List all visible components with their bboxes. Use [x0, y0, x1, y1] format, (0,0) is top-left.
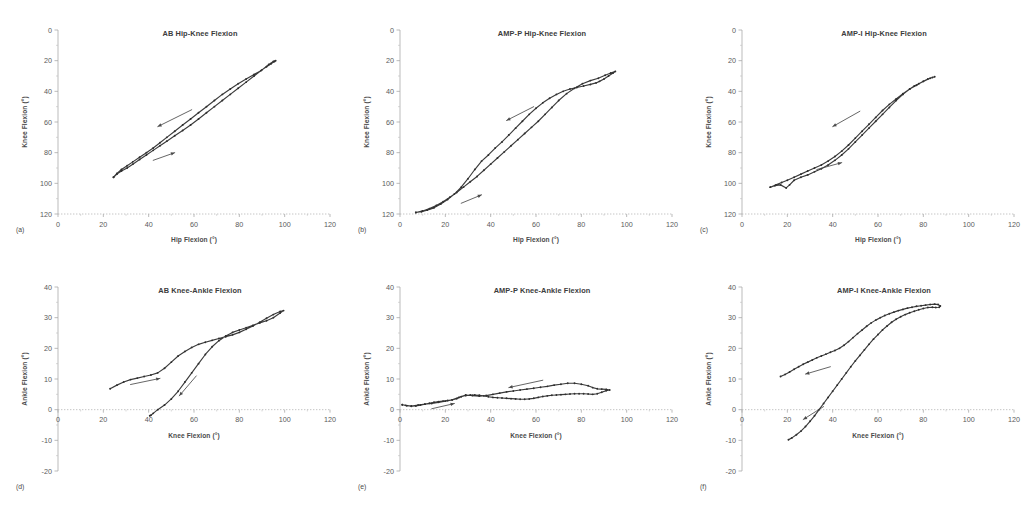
data-marker [555, 394, 557, 396]
y-tick-label: 60 [44, 118, 52, 127]
data-marker [596, 388, 598, 390]
data-marker [528, 398, 530, 400]
y-tick-label: 20 [44, 56, 52, 65]
data-marker [569, 393, 571, 395]
data-marker [935, 307, 937, 309]
data-marker [841, 150, 843, 152]
data-marker [266, 66, 268, 68]
data-marker [515, 398, 517, 400]
data-marker [597, 77, 599, 79]
data-marker [861, 329, 863, 331]
data-marker [506, 397, 508, 399]
data-marker [521, 120, 523, 122]
arrow-head-icon [509, 385, 513, 388]
plot-panel-d: 403020100-10-20020406080100120AB Knee-An… [0, 257, 342, 514]
data-marker [460, 186, 462, 188]
data-marker [857, 333, 859, 335]
data-marker [182, 124, 184, 126]
data-marker [807, 174, 809, 176]
data-marker [426, 209, 428, 211]
data-marker [820, 164, 822, 166]
y-tick-label: 80 [728, 148, 736, 157]
x-tick-label: 100 [279, 415, 291, 424]
plot-panel-b: 020406080100120020406080100120AMP-P Hip-… [342, 0, 684, 257]
x-tick-label: 120 [666, 220, 678, 229]
data-marker [152, 149, 154, 151]
data-marker [164, 367, 166, 369]
data-marker [583, 85, 585, 87]
data-marker [116, 384, 118, 386]
data-marker [499, 392, 501, 394]
data-marker [608, 75, 610, 77]
y-tick-label: 80 [44, 148, 52, 157]
data-marker [601, 388, 603, 390]
data-marker [909, 88, 911, 90]
data-marker [827, 396, 829, 398]
data-marker [823, 403, 825, 405]
data-marker [832, 390, 834, 392]
data-marker [848, 144, 850, 146]
data-marker [458, 396, 460, 398]
data-marker [916, 84, 918, 86]
data-marker [834, 156, 836, 158]
data-marker [827, 164, 829, 166]
x-tick-label: 80 [235, 220, 243, 229]
x-tick-label: 100 [963, 220, 975, 229]
data-marker [537, 396, 539, 398]
data-marker [519, 398, 521, 400]
data-marker [868, 127, 870, 129]
x-tick-label: 0 [56, 220, 60, 229]
data-marker [549, 97, 551, 99]
data-marker [270, 63, 272, 65]
data-marker [868, 343, 870, 345]
y-tick-label: -10 [42, 436, 52, 445]
data-marker [888, 313, 890, 315]
x-tick-label: 100 [621, 415, 633, 424]
data-marker [848, 148, 850, 150]
data-marker [895, 100, 897, 102]
data-marker [913, 310, 915, 312]
data-curve [770, 77, 934, 188]
data-marker [232, 331, 234, 333]
data-marker [508, 134, 510, 136]
x-tick-label: 0 [398, 415, 402, 424]
data-marker [447, 198, 449, 200]
data-marker [157, 409, 159, 411]
data-marker [907, 307, 909, 309]
data-marker [524, 398, 526, 400]
data-marker [272, 317, 274, 319]
data-marker [560, 383, 562, 385]
data-marker [918, 83, 920, 85]
data-marker [886, 325, 888, 327]
data-marker [159, 142, 161, 144]
data-marker [814, 171, 816, 173]
x-axis-title: Hip Flexion (°) [513, 236, 559, 244]
data-marker [465, 394, 467, 396]
panel-letter: (a) [16, 226, 24, 234]
data-marker [531, 126, 533, 128]
data-marker [854, 360, 856, 362]
data-marker [780, 376, 782, 378]
data-marker [283, 310, 285, 312]
x-tick-label: 60 [874, 220, 882, 229]
y-tick-label: 0 [390, 405, 394, 414]
x-tick-label: 0 [56, 415, 60, 424]
data-marker [198, 363, 200, 365]
x-tick-label: 60 [532, 220, 540, 229]
plot-panel-c: 020406080100120020406080100120AMP-I Hip-… [684, 0, 1026, 257]
data-marker [132, 163, 134, 165]
x-tick-label: 20 [99, 415, 107, 424]
data-marker [431, 403, 433, 405]
data-marker [841, 378, 843, 380]
data-marker [451, 399, 453, 401]
data-marker [904, 314, 906, 316]
y-tick-label: 0 [732, 405, 736, 414]
x-tick-label: 40 [145, 415, 153, 424]
y-axis-title: Knee Flexion (°) [705, 96, 713, 148]
data-marker [164, 404, 166, 406]
data-marker [574, 87, 576, 89]
data-marker [519, 389, 521, 391]
x-tick-label: 20 [441, 220, 449, 229]
data-marker [780, 184, 782, 186]
data-marker [517, 139, 519, 141]
